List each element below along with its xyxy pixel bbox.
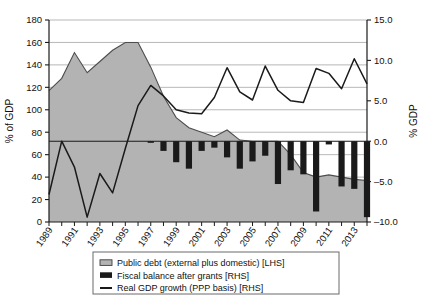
fiscal-balance-bar bbox=[338, 141, 344, 186]
left-axis-tick-label: 160 bbox=[26, 37, 42, 48]
fiscal-balance-bar bbox=[237, 141, 243, 168]
x-axis-tick-label: 2011 bbox=[314, 225, 335, 248]
right-axis-tick-label: –5.0 bbox=[374, 176, 393, 187]
x-axis-tick-label: 2007 bbox=[262, 225, 283, 249]
left-axis-tick-label: 180 bbox=[26, 14, 42, 25]
fiscal-balance-bar bbox=[300, 141, 306, 174]
right-axis-ticks: –10.0–5.00.05.010.015.0 bbox=[367, 14, 398, 227]
x-axis-tick-label: 2001 bbox=[186, 225, 207, 249]
fiscal-balance-bar bbox=[351, 141, 357, 189]
legend-label: Real GDP growth (PPP basis) [RHS] bbox=[117, 283, 263, 293]
dual-axis-chart: 020406080100120140160180–10.0–5.00.05.01… bbox=[0, 0, 428, 299]
left-axis-tick-label: 20 bbox=[31, 194, 42, 205]
chart-container: 020406080100120140160180–10.0–5.00.05.01… bbox=[0, 0, 428, 299]
fiscal-balance-bar bbox=[160, 141, 166, 151]
x-axis-ticks: 1989199119931995199719992001200320052007… bbox=[34, 222, 367, 248]
fiscal-balance-bar bbox=[224, 141, 230, 157]
left-axis-ticks: 020406080100120140160180 bbox=[26, 14, 49, 227]
fiscal-balance-bar bbox=[249, 141, 255, 161]
x-axis-tick-label: 2009 bbox=[288, 225, 309, 249]
left-axis-tick-label: 0 bbox=[37, 216, 42, 227]
x-axis-tick-label: 1999 bbox=[161, 225, 182, 249]
x-axis-tick-label: 1997 bbox=[135, 225, 156, 249]
x-axis-tick-label: 1995 bbox=[110, 225, 131, 249]
left-axis-tick-label: 60 bbox=[31, 149, 42, 160]
fiscal-balance-bar bbox=[275, 141, 281, 184]
left-axis-tick-label: 100 bbox=[26, 104, 42, 115]
x-axis-tick-label: 1991 bbox=[59, 225, 80, 249]
x-axis-tick-label: 2003 bbox=[212, 225, 233, 249]
x-axis-tick-label: 1989 bbox=[34, 225, 55, 249]
fiscal-balance-bar bbox=[313, 141, 319, 211]
fiscal-balance-bar bbox=[288, 141, 294, 170]
fiscal-balance-bar bbox=[211, 141, 217, 147]
right-axis-tick-label: 10.0 bbox=[374, 55, 393, 66]
x-axis-tick-label: 2005 bbox=[237, 225, 258, 249]
left-axis-tick-label: 120 bbox=[26, 82, 42, 93]
left-axis-tick-label: 40 bbox=[31, 171, 42, 182]
right-axis-tick-label: 5.0 bbox=[374, 95, 387, 106]
right-axis-tick-label: –10.0 bbox=[374, 216, 398, 227]
legend-label: Public debt (external plus domestic) [LH… bbox=[117, 258, 285, 268]
right-axis-tick-label: 0.0 bbox=[374, 136, 387, 147]
legend-label: Fiscal balance after grants [RHS] bbox=[117, 271, 249, 281]
fiscal-balance-bar bbox=[262, 141, 268, 156]
x-axis-tick-label: 2013 bbox=[339, 225, 360, 249]
left-axis-title: % of GDP bbox=[4, 98, 15, 143]
right-axis-tick-label: 15.0 bbox=[374, 14, 393, 25]
x-axis-tick-label: 1993 bbox=[84, 225, 105, 249]
legend-marker-fiscal-balance bbox=[100, 272, 112, 278]
right-axis-title: % GDP bbox=[408, 104, 419, 138]
left-axis-tick-label: 140 bbox=[26, 59, 42, 70]
left-axis-tick-label: 80 bbox=[31, 127, 42, 138]
legend-marker-public-debt bbox=[100, 260, 112, 266]
fiscal-balance-bar bbox=[173, 141, 179, 162]
fiscal-balance-bar bbox=[186, 141, 192, 168]
chart-legend: Public debt (external plus domestic) [LH… bbox=[93, 252, 339, 294]
fiscal-balance-bar bbox=[199, 141, 205, 151]
